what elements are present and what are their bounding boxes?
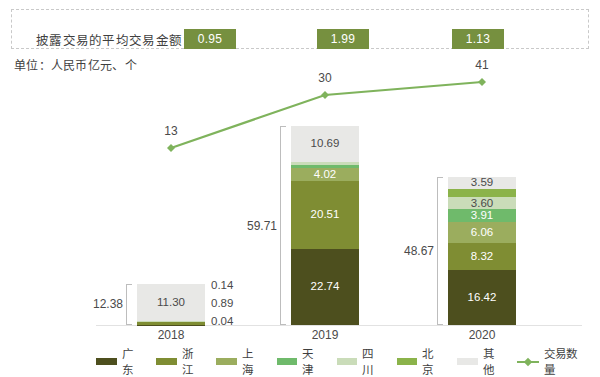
line-marker-2018 — [167, 144, 175, 152]
total-bracket-2018 — [126, 284, 132, 325]
total-label-2020: 48.67 — [390, 244, 434, 258]
x-axis-label-2020: 2020 — [448, 328, 516, 342]
legend-item-天津[interactable]: 天津 — [277, 345, 324, 377]
legend-swatch-icon — [337, 358, 358, 365]
legend-item-transaction-count[interactable]: 交易数量 — [517, 345, 587, 377]
total-bracket-2020 — [437, 177, 443, 325]
legend-swatch-icon — [96, 358, 117, 365]
legend-label: 浙江 — [182, 345, 204, 377]
legend-label: 广东 — [122, 345, 144, 377]
legend-item-四川[interactable]: 四川 — [337, 345, 384, 377]
legend-swatch-icon — [457, 358, 478, 365]
legend-item-浙江[interactable]: 浙江 — [156, 345, 203, 377]
legend-label: 北京 — [422, 345, 444, 377]
legend-item-其他[interactable]: 其他 — [457, 345, 504, 377]
x-axis-label-2018: 2018 — [137, 328, 205, 342]
legend-label: 交易数量 — [544, 345, 587, 377]
legend-item-北京[interactable]: 北京 — [397, 345, 444, 377]
chart-legend: 广东浙江上海天津四川北京其他交易数量 — [96, 345, 600, 377]
line-marker-2019 — [321, 91, 329, 99]
total-label-2018: 12.38 — [79, 297, 123, 311]
line-value-label-2018: 13 — [151, 124, 191, 138]
total-bracket-2019 — [280, 126, 286, 325]
legend-swatch-icon — [216, 358, 237, 365]
line-marker-2020 — [478, 78, 486, 86]
legend-label: 上海 — [242, 345, 264, 377]
legend-item-上海[interactable]: 上海 — [216, 345, 263, 377]
legend-swatch-icon — [397, 358, 418, 365]
legend-label: 其他 — [483, 345, 505, 377]
legend-swatch-icon — [277, 358, 298, 365]
legend-item-广东[interactable]: 广东 — [96, 345, 143, 377]
legend-swatch-icon — [156, 358, 177, 365]
total-label-2019: 59.71 — [233, 219, 277, 233]
outside-value-2018-guangdong: 0.04 — [211, 315, 233, 327]
line-path — [171, 82, 482, 148]
x-axis-label-2019: 2019 — [291, 328, 359, 342]
outside-value-2018-zhejiang: 0.89 — [211, 297, 233, 309]
legend-line-marker-icon — [517, 358, 539, 365]
legend-label: 四川 — [362, 345, 384, 377]
outside-value-2018-sichuan: 0.14 — [211, 279, 233, 291]
line-value-label-2020: 41 — [462, 58, 502, 72]
line-value-label-2019: 30 — [305, 71, 345, 85]
legend-label: 天津 — [302, 345, 324, 377]
